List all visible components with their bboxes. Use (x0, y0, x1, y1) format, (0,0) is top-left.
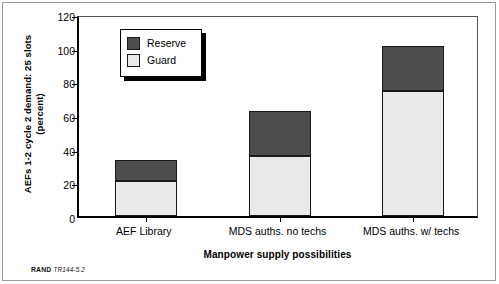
bar-segment-reserve[interactable] (249, 111, 311, 156)
bar-segment-guard[interactable] (382, 91, 444, 216)
legend-label-guard: Guard (147, 55, 176, 66)
bar-segment-guard[interactable] (115, 181, 177, 216)
figure-container: AEFs 1-2 cycle 2 demand: 25 slots (perce… (0, 0, 499, 284)
legend-item-guard: Guard (127, 52, 195, 69)
rand-brand-label: RAND (31, 266, 51, 273)
bar-segment-reserve[interactable] (115, 160, 177, 181)
bar-group[interactable] (115, 160, 177, 216)
x-axis-category-label: MDS auths. no techs (229, 226, 326, 237)
y-axis-tick-label: 20 (63, 180, 75, 191)
figure-number-label: TR144-5.2 (53, 266, 85, 273)
legend-label-reserve: Reserve (147, 38, 186, 49)
figure-footer: RANDTR144-5.2 (31, 266, 85, 273)
x-axis-tick (280, 216, 281, 222)
y-axis-title-line1: AEFs 1-2 cycle 2 demand: 25 slots (22, 35, 33, 194)
x-axis-category-label: AEF Library (116, 226, 171, 237)
x-axis-category-label: MDS auths. w/ techs (363, 226, 459, 237)
x-axis-tick (413, 216, 414, 222)
y-axis-tick-label: 40 (63, 146, 75, 157)
bar-group[interactable] (382, 46, 444, 216)
y-axis-tick-label: 0 (69, 214, 75, 225)
reserve-swatch-icon (127, 37, 140, 50)
y-axis-title-line2: (percent) (34, 35, 46, 194)
legend-item-reserve: Reserve (127, 35, 195, 52)
chart-legend: Reserve Guard (120, 29, 202, 77)
x-axis-tick (146, 216, 147, 222)
y-axis-tick-label: 120 (57, 12, 75, 23)
bar-segment-reserve[interactable] (382, 46, 444, 91)
y-axis-tick-label: 80 (63, 79, 75, 90)
bar-segment-guard[interactable] (249, 156, 311, 216)
x-axis-title: Manpower supply possibilities (77, 249, 478, 260)
y-axis-tick-label: 60 (63, 113, 75, 124)
guard-swatch-icon (127, 54, 140, 67)
y-axis-tick-label: 100 (57, 45, 75, 56)
bar-group[interactable] (249, 111, 311, 216)
